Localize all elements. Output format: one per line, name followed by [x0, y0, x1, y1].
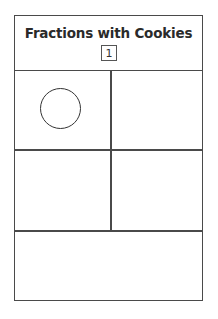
worksheet-title: Fractions with Cookies	[15, 25, 202, 41]
cell-bottom-left	[15, 151, 110, 230]
cell-top-right	[111, 71, 203, 149]
worksheet-frame: Fractions with Cookies 1	[14, 15, 203, 301]
footer-box	[15, 232, 202, 300]
worksheet-header: Fractions with Cookies 1	[15, 16, 202, 71]
cell-bottom-right	[111, 151, 203, 230]
page-number-box: 1	[101, 45, 117, 61]
cookie-circle-icon	[40, 88, 81, 129]
